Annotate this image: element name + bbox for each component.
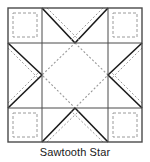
sawtooth-star-figure: Sawtooth Star — [0, 0, 150, 162]
quilt-block-svg — [0, 0, 150, 145]
quilt-block-diagram — [0, 0, 150, 145]
block-background — [8, 8, 142, 142]
block-caption: Sawtooth Star — [0, 145, 150, 159]
